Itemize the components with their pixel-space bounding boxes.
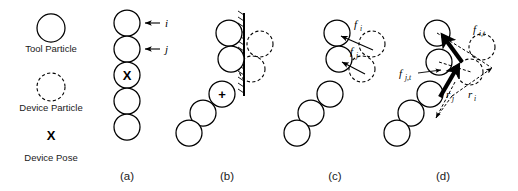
- legend-label-device-pose: Device Pose: [24, 152, 77, 163]
- panel-caption-b: (b): [220, 170, 234, 182]
- device-pose-marker: +: [218, 87, 226, 102]
- tool-particle: [284, 120, 310, 146]
- radius-i-subscript: i: [474, 94, 476, 103]
- force-i-tangential-subscript: i,t: [479, 29, 486, 38]
- tool-particle: [114, 36, 140, 62]
- tool-particle: [216, 20, 242, 46]
- panel-caption-c: (c): [328, 170, 342, 182]
- device-pose-icon: X: [47, 128, 56, 143]
- force-j-tangential-subscript: j,t: [404, 73, 412, 82]
- tool-particle: [417, 81, 443, 107]
- tool-particle: [114, 114, 140, 140]
- tool-particle-icon: [37, 14, 65, 42]
- radius-j-subscript: j: [451, 94, 454, 103]
- legend-label-tool-particle: Tool Particle: [25, 43, 77, 54]
- tool-particle: [324, 20, 350, 46]
- tool-particle: [384, 120, 410, 146]
- tool-particle: [218, 46, 244, 72]
- index-i-label: i: [165, 17, 168, 29]
- tool-particle: [317, 81, 343, 107]
- device-pose-marker: X: [123, 68, 132, 83]
- tool-particle: [176, 120, 202, 146]
- tool-particle: [114, 10, 140, 36]
- panel-caption-a: (a): [120, 170, 134, 182]
- panel-caption-d: (d): [436, 170, 450, 182]
- tool-particle: [326, 46, 352, 72]
- legend-label-device-particle: Device Particle: [19, 102, 82, 113]
- radius-i-label: r: [468, 88, 473, 100]
- force-i-subscript: i: [360, 24, 362, 33]
- tool-particle: [114, 88, 140, 114]
- radius-j-label: r: [446, 88, 451, 100]
- force-j-subscript: j: [355, 51, 358, 60]
- figure-canvas: Tool Particle Device Particle X Device P…: [0, 0, 518, 191]
